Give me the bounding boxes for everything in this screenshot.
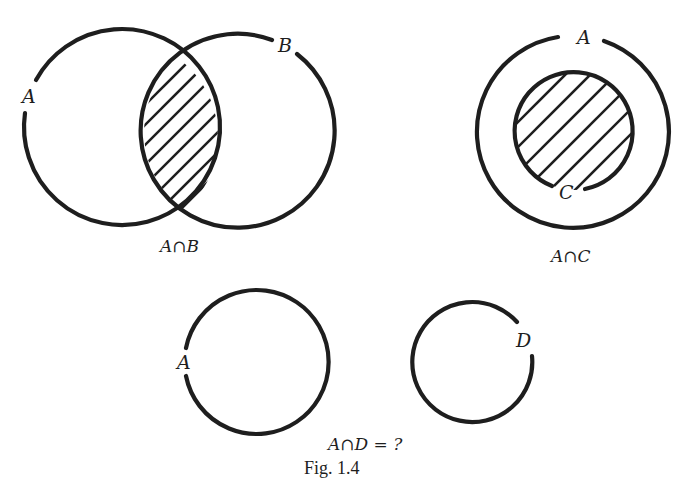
set-d-circle	[412, 302, 532, 422]
set-b-label: B	[277, 34, 292, 56]
panel-a-intersect-d: A D A∩D = ?	[175, 290, 532, 454]
panel-caption: A∩C	[549, 246, 591, 266]
set-a-label: A	[20, 85, 36, 107]
set-a-circle	[24, 29, 220, 225]
panel-caption: A∩D = ?	[326, 434, 403, 454]
set-b-circle	[141, 34, 335, 228]
set-a-label: A	[175, 351, 191, 373]
set-c-label: C	[559, 181, 574, 203]
panel-caption: A∩B	[158, 236, 199, 256]
set-d-label: D	[515, 329, 531, 351]
venn-diagram-figure: A B A∩B A C A∩C A D A∩D = ? Fig. 1.4	[0, 0, 694, 489]
figure-caption: Fig. 1.4	[304, 458, 360, 478]
set-a-circle	[186, 290, 329, 434]
set-a-label: A	[575, 26, 591, 48]
panel-a-intersect-c: A C A∩C	[477, 26, 669, 266]
